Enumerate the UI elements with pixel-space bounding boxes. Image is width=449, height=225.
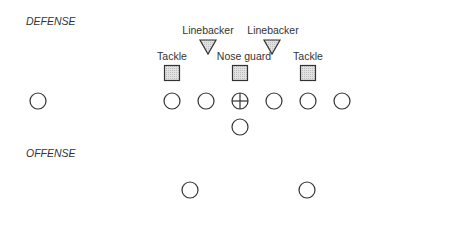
- tackle-left-icon: [165, 66, 180, 81]
- quarterback-icon: [232, 119, 248, 135]
- linebacker-left-icon: [200, 40, 216, 54]
- back-left-icon: [182, 182, 198, 198]
- offense-player-icon: [334, 93, 350, 109]
- center-player-icon: [232, 93, 248, 109]
- offense-player-icon: [30, 93, 46, 109]
- nose-guard-icon: [233, 66, 248, 81]
- offense-player-icon: [266, 93, 282, 109]
- formation-diagram: [0, 0, 449, 225]
- linebacker-right-icon: [264, 40, 280, 54]
- back-right-icon: [299, 182, 315, 198]
- offense-player-icon: [198, 93, 214, 109]
- offense-player-icon: [164, 93, 180, 109]
- tackle-right-icon: [301, 66, 316, 81]
- offense-player-icon: [300, 93, 316, 109]
